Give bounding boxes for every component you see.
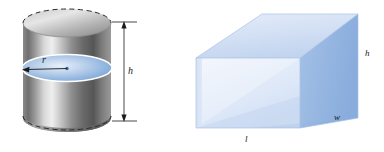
cylinder-shape: r: [22, 9, 112, 132]
cylinder-height-dimension: h: [112, 21, 137, 122]
geometry-figure: r h: [0, 0, 384, 152]
box-height-label: h: [365, 48, 370, 58]
cylinder-height-label: h: [128, 65, 133, 76]
figure-canvas: r h: [0, 0, 384, 152]
box-width-label: w: [334, 112, 340, 122]
rectangular-prism-shape: h w l: [196, 14, 370, 144]
radius-label: r: [42, 54, 46, 65]
box-length-label: l: [245, 134, 248, 144]
